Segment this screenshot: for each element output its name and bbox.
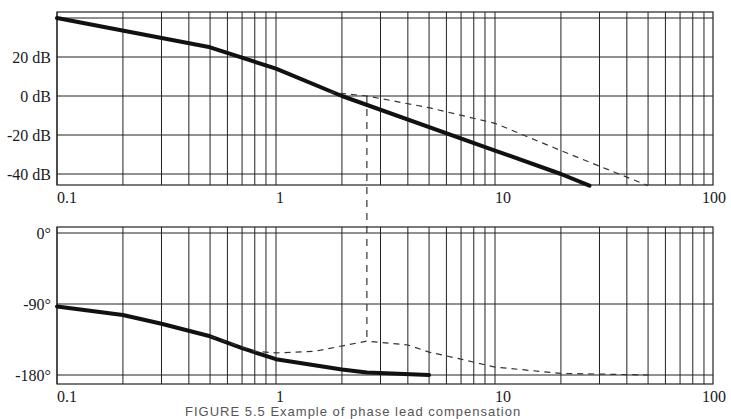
- y-tick-label: -20 dB: [7, 127, 51, 144]
- y-tick-label: -180°: [15, 367, 51, 384]
- x-tick-label: 100: [702, 388, 726, 405]
- y-tick-label: 20 dB: [12, 49, 51, 66]
- compensated-curve: [329, 92, 648, 186]
- x-tick-label: 0.1: [57, 189, 77, 206]
- x-tick-label: 10: [495, 388, 511, 405]
- figure-caption: FIGURE 5.5 Example of phase lead compens…: [185, 404, 521, 419]
- x-tick-label: 0.1: [57, 388, 77, 405]
- y-tick-label: 0 dB: [20, 88, 51, 105]
- y-tick-label: -90°: [23, 296, 51, 313]
- uncompensated-curve: [57, 18, 590, 186]
- y-tick-label: 0°: [37, 225, 51, 242]
- x-tick-label: 1: [276, 388, 284, 405]
- x-tick-label: 10: [495, 189, 511, 206]
- uncompensated-curve: [57, 306, 429, 375]
- phase-plot: 0°-90°-180°0.1110100: [15, 225, 726, 405]
- x-tick-label: 100: [702, 189, 726, 206]
- y-tick-label: -40 dB: [7, 166, 51, 183]
- x-tick-label: 1: [276, 189, 284, 206]
- plot-frame: [57, 227, 713, 384]
